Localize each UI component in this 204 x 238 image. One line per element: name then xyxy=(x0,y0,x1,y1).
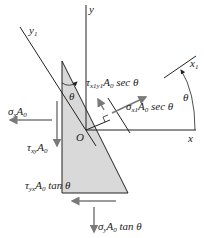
y1-axis xyxy=(20,27,96,146)
x1-axis-label: x1 xyxy=(190,58,198,71)
tau-yx-label: τyxA0 tan θ xyxy=(25,180,70,193)
theta-label-top: θ xyxy=(69,91,74,102)
tau-x1y1-label: τx1y1A0 sec θ xyxy=(86,77,138,90)
sigma-y-label: σyA0 tan θ xyxy=(98,221,142,234)
tau-xy-label: τxyA0 xyxy=(27,142,47,155)
tau-x1y1-arrow xyxy=(98,99,104,110)
x-axis-label: x xyxy=(188,133,193,144)
theta-label-right: θ xyxy=(183,92,188,103)
y1-axis-label: y1 xyxy=(29,25,37,38)
sigma-x1-label: σx1A0 sec θ xyxy=(126,101,173,114)
y-axis-label: y xyxy=(89,4,94,15)
origin-label: O xyxy=(76,132,84,143)
sigma-x-label: σxA0 xyxy=(8,106,27,119)
